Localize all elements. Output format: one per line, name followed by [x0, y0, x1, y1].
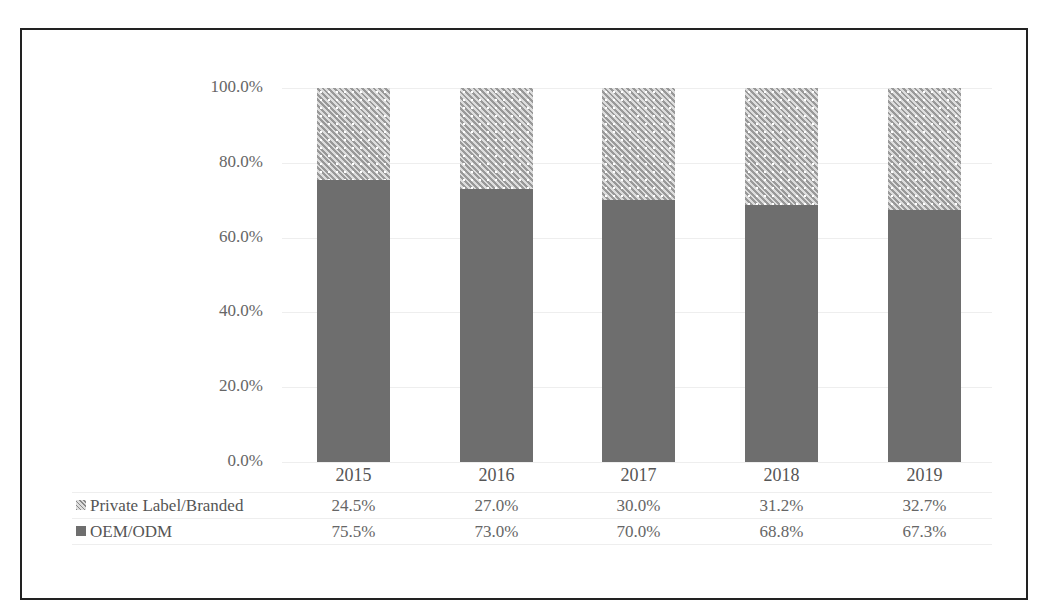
data-table-cell: 75.5%: [282, 522, 425, 542]
data-table-row: OEM/ODM75.5%73.0%70.0%68.8%67.3%: [72, 518, 992, 545]
bar-2018: [745, 88, 818, 462]
bar-2016: [460, 88, 533, 462]
bar-2015: [317, 88, 390, 462]
x-axis-label: 2016: [425, 465, 568, 486]
hatched-swatch-icon: [76, 500, 86, 510]
series-legend-label: Private Label/Branded: [76, 496, 243, 516]
data-table-bottom-border: [72, 544, 992, 545]
x-axis-label: 2018: [710, 465, 853, 486]
bar-2019: [888, 88, 961, 462]
segment-oem-odm: [888, 210, 961, 462]
data-table-row: Private Label/Branded24.5%27.0%30.0%31.2…: [72, 492, 992, 519]
segment-private-label: [317, 88, 390, 180]
segment-private-label: [745, 88, 818, 205]
y-axis-tick-label: 60.0%: [153, 227, 263, 247]
series-name: OEM/ODM: [90, 522, 172, 541]
data-table-cell: 30.0%: [567, 496, 710, 516]
bar-2017: [602, 88, 675, 462]
data-table-cell: 27.0%: [425, 496, 568, 516]
data-table-cell: 73.0%: [425, 522, 568, 542]
solid-swatch-icon: [76, 526, 86, 536]
segment-oem-odm: [460, 189, 533, 462]
segment-private-label: [460, 88, 533, 189]
data-table-cell: 32.7%: [853, 496, 996, 516]
y-axis-tick-label: 80.0%: [153, 152, 263, 172]
data-table-cell: 31.2%: [710, 496, 853, 516]
x-axis-label: 2015: [282, 465, 425, 486]
segment-oem-odm: [602, 200, 675, 462]
x-axis-label: 2017: [567, 465, 710, 486]
series-legend-label: OEM/ODM: [76, 522, 172, 542]
y-axis-tick-label: 20.0%: [153, 376, 263, 396]
data-table-cell: 70.0%: [567, 522, 710, 542]
segment-oem-odm: [317, 180, 390, 462]
gridline: [282, 462, 992, 463]
data-table-cell: 67.3%: [853, 522, 996, 542]
segment-oem-odm: [745, 205, 818, 462]
y-axis-tick-label: 100.0%: [153, 77, 263, 97]
segment-private-label: [888, 88, 961, 210]
segment-private-label: [602, 88, 675, 200]
series-name: Private Label/Branded: [90, 496, 243, 515]
y-axis-tick-label: 40.0%: [153, 301, 263, 321]
y-axis-tick-label: 0.0%: [153, 451, 263, 471]
data-table-cell: 68.8%: [710, 522, 853, 542]
data-table-cell: 24.5%: [282, 496, 425, 516]
x-axis-label: 2019: [853, 465, 996, 486]
